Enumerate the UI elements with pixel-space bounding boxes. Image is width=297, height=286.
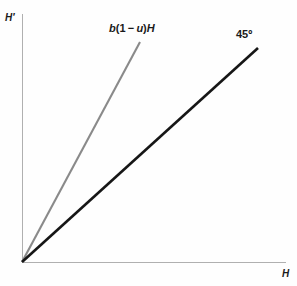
series-label-b-one-minus-u-h: b(1 − u)H <box>109 23 155 34</box>
plot-area <box>0 0 297 286</box>
label-variable-h: H <box>147 22 155 34</box>
series-label-45-degree: 45º <box>236 29 252 40</box>
label-coefficient-b: b <box>109 22 116 34</box>
y-axis-label: H′ <box>5 13 15 23</box>
chart-container: H′ H b(1 − u)H 45º <box>0 0 297 286</box>
x-axis-label: H <box>282 269 289 279</box>
